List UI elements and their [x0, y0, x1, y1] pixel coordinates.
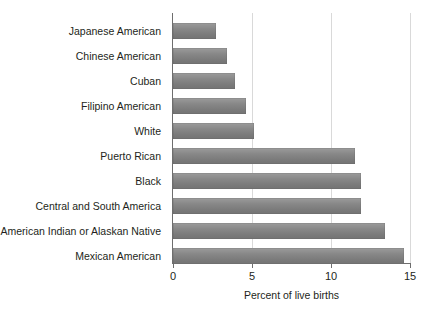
bar — [173, 173, 361, 189]
bar-chart-figure: Japanese AmericanChinese AmericanCubanFi… — [0, 0, 427, 315]
bar — [173, 223, 385, 239]
bar — [173, 148, 355, 164]
x-tick-label-15: 15 — [404, 269, 416, 283]
x-tick-label-5: 5 — [249, 269, 255, 283]
x-tick-label-0: 0 — [170, 269, 176, 283]
bar — [173, 48, 227, 64]
category-label: Central and South America — [36, 198, 162, 214]
category-label: Black — [135, 173, 161, 189]
category-label: White — [134, 123, 161, 139]
category-label: Mexican American — [75, 248, 161, 264]
bar — [173, 23, 216, 39]
x-axis-title: Percent of live births — [173, 289, 410, 301]
plot-area — [173, 13, 410, 263]
category-label: Puerto Rican — [100, 148, 161, 164]
category-label: Filipino American — [81, 98, 161, 114]
bar — [173, 73, 235, 89]
x-axis-tick-labels: 051015 — [173, 269, 410, 285]
category-label: Japanese American — [69, 23, 161, 39]
bar — [173, 98, 246, 114]
gridline-15 — [410, 13, 411, 263]
x-tick-label-10: 10 — [325, 269, 337, 283]
category-label: Cuban — [130, 73, 161, 89]
category-label: Chinese American — [76, 48, 161, 64]
tick-mark-15 — [410, 263, 411, 268]
bar — [173, 248, 404, 264]
bar — [173, 198, 361, 214]
bar — [173, 123, 254, 139]
category-label: American Indian or Alaskan Native — [1, 223, 162, 239]
category-axis-labels: Japanese AmericanChinese AmericanCubanFi… — [0, 13, 167, 263]
